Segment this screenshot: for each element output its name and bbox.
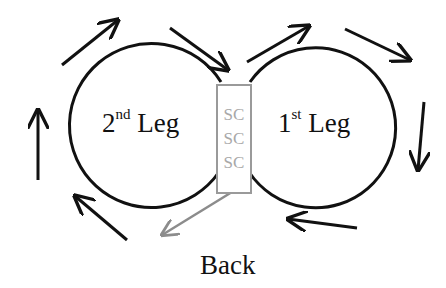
second-leg-suffix: nd xyxy=(116,106,131,122)
arrow-left-top xyxy=(62,20,118,65)
arrow-right-top xyxy=(345,29,410,60)
sc-item: SC xyxy=(224,103,245,127)
sc-item: SC xyxy=(224,151,245,175)
first-leg-label: 1st Leg xyxy=(278,108,350,139)
arrow-right-bottom xyxy=(288,219,357,228)
first-leg-suffix: st xyxy=(292,106,302,122)
second-leg-word: Leg xyxy=(137,108,179,138)
arrow-right-down xyxy=(418,102,424,170)
second-leg-label: 2nd Leg xyxy=(102,108,179,139)
arrow-left-bottom xyxy=(75,196,127,240)
first-leg-number: 1 xyxy=(278,108,292,138)
back-arrow xyxy=(162,192,232,235)
sc-box: SC SC SC xyxy=(216,84,252,194)
first-leg-word: Leg xyxy=(308,108,350,138)
sc-item: SC xyxy=(224,127,245,151)
second-leg-number: 2 xyxy=(102,108,116,138)
back-label: Back xyxy=(200,250,255,281)
